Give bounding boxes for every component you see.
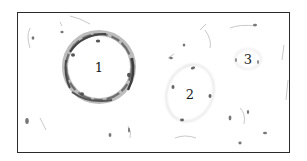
cluster-label-3: 3 [244,53,252,66]
cluster-label-2: 2 [186,88,194,101]
cluster-label-1: 1 [95,61,103,74]
background-nuclei [25,24,267,145]
micrograph-illustration [0,0,307,161]
